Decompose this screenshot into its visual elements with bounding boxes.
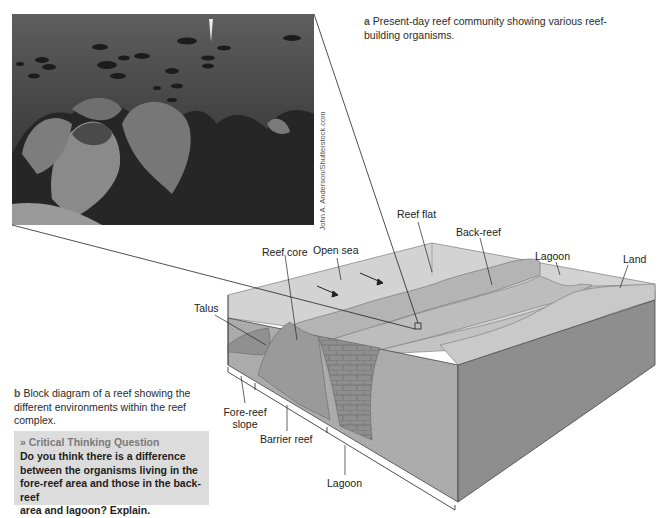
label-fore-reef-line: Fore-reef: [222, 406, 268, 418]
question-line: Do you think there is a difference: [20, 450, 203, 464]
critical-thinking-title: » Critical Thinking Question: [20, 436, 203, 448]
panel-b-caption-line: complex.: [14, 414, 214, 428]
panel-b-caption-line: different environments within the reef: [14, 401, 214, 415]
label-reef-flat: Reef flat: [397, 208, 436, 220]
panel-b-letter: b: [14, 387, 20, 399]
question-line: area and lagoon? Explain.: [20, 504, 203, 518]
question-line: between the organisms living in the: [20, 464, 203, 478]
label-lagoon-bottom: Lagoon: [327, 477, 362, 489]
label-lagoon-top: Lagoon: [535, 250, 570, 262]
label-fore-reef-line: slope: [222, 418, 268, 430]
panel-b-caption: bBlock diagram of a reef showing the dif…: [14, 387, 214, 428]
label-talus: Talus: [194, 302, 219, 314]
panel-b-caption-line: Block diagram of a reef showing the: [23, 387, 190, 399]
label-fore-reef-slope: Fore-reef slope: [222, 406, 268, 430]
question-line: fore-reef area and those in the back-ree…: [20, 477, 203, 504]
label-back-reef: Back-reef: [456, 226, 501, 238]
label-barrier-reef: Barrier reef: [260, 433, 313, 445]
label-open-sea: Open sea: [313, 244, 359, 256]
critical-thinking-box: » Critical Thinking Question Do you thin…: [14, 431, 209, 505]
label-reef-core: Reef core: [262, 246, 308, 258]
critical-thinking-question: Do you think there is a difference betwe…: [20, 450, 203, 518]
label-land: Land: [623, 253, 646, 265]
